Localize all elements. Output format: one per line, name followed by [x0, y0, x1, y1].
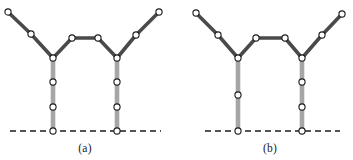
node-b-right-arm-mid [319, 32, 325, 38]
node-a-left-arm-tip [5, 9, 11, 15]
node-a-right-arm-tip [156, 9, 162, 15]
figure-canvas: (a)(b) [0, 0, 353, 160]
node-b-left-junction [235, 55, 241, 61]
node-a-left-junction [50, 55, 56, 61]
node-b-left-arm-mid [215, 32, 221, 38]
node-a-right-leg-base [114, 128, 120, 134]
node-b-plateau-left [253, 35, 259, 41]
node-a-plateau-left [69, 35, 75, 41]
node-a-left-leg-base [50, 128, 56, 134]
node-a-left-leg-lower [50, 104, 56, 110]
node-b-right-junction [299, 55, 305, 61]
node-a-left-arm-mid [28, 31, 34, 37]
node-a-right-leg-lower [114, 104, 120, 110]
node-b-right-leg-base [299, 128, 305, 134]
node-a-plateau-right [95, 35, 101, 41]
node-b-left-leg-base [235, 128, 241, 134]
node-a-right-arm-mid [133, 32, 139, 38]
node-a-left-leg-upper [50, 79, 56, 85]
panel-caption-panel-a: (a) [78, 142, 91, 155]
node-a-right-leg-upper [114, 79, 120, 85]
node-b-left-arm-tip [193, 10, 199, 16]
node-b-right-leg-lower [299, 104, 305, 110]
figure-root: (a)(b) [0, 0, 353, 160]
node-b-right-arm-tip [339, 11, 345, 17]
node-b-left-leg-mid [235, 92, 241, 98]
node-a-right-junction [114, 55, 120, 61]
node-b-right-leg-upper [299, 79, 305, 85]
panel-caption-panel-b: (b) [263, 142, 277, 155]
node-b-plateau-right [282, 35, 288, 41]
